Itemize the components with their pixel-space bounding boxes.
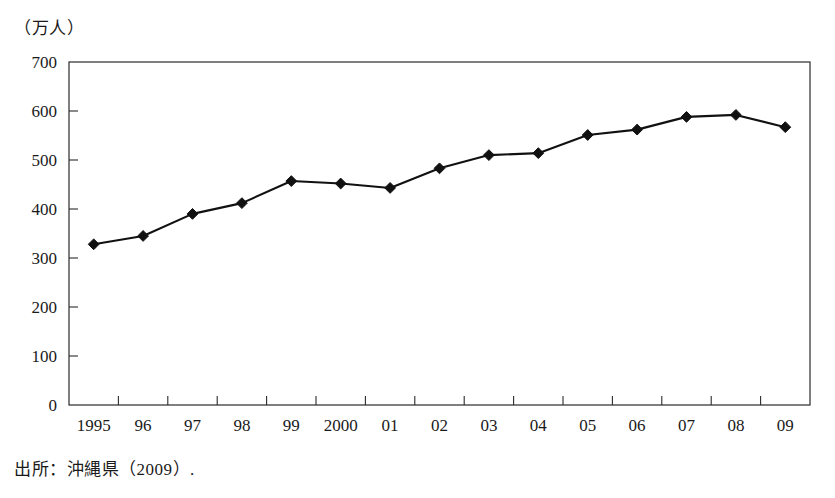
- x-tick-label: 04: [530, 416, 548, 435]
- x-tick-label: 07: [678, 416, 696, 435]
- x-tick-label: 05: [579, 416, 596, 435]
- source-note: 出所：沖縄県（2009）.: [14, 455, 195, 480]
- x-tick-label: 02: [431, 416, 448, 435]
- x-tick-label: 01: [382, 416, 399, 435]
- x-axis-ticks: 1995969798992000010203040506070809: [77, 396, 794, 435]
- data-point-marker: [434, 163, 445, 174]
- x-tick-label: 99: [283, 416, 300, 435]
- y-tick-label: 600: [32, 102, 58, 121]
- y-tick-label: 200: [32, 298, 58, 317]
- x-tick-label: 97: [184, 416, 202, 435]
- y-tick-label: 400: [32, 200, 58, 219]
- plot-frame: [69, 62, 810, 405]
- line-chart: 0100200300400500600700 19959697989920000…: [0, 0, 835, 460]
- data-point-marker: [187, 209, 198, 220]
- data-point-marker: [484, 150, 495, 161]
- data-point-marker: [286, 176, 297, 187]
- x-tick-label: 2000: [324, 416, 358, 435]
- y-axis-ticks: 0100200300400500600700: [32, 53, 79, 415]
- x-tick-label: 09: [777, 416, 794, 435]
- data-point-marker: [681, 111, 692, 122]
- y-tick-label: 700: [32, 53, 58, 72]
- x-tick-label: 98: [233, 416, 250, 435]
- x-tick-label: 96: [135, 416, 152, 435]
- y-tick-label: 500: [32, 151, 58, 170]
- data-point-marker: [780, 122, 791, 133]
- data-point-marker: [731, 110, 742, 121]
- data-point-marker: [335, 178, 346, 189]
- series-line-path: [94, 115, 786, 244]
- figure-container: （万人） 0100200300400500600700 199596979899…: [0, 0, 835, 498]
- data-point-marker: [138, 231, 149, 242]
- y-tick-label: 100: [32, 347, 58, 366]
- data-point-markers: [88, 110, 790, 250]
- data-point-marker: [237, 198, 248, 209]
- data-point-marker: [582, 130, 593, 141]
- x-tick-label: 08: [727, 416, 744, 435]
- x-tick-label: 03: [480, 416, 497, 435]
- y-tick-label: 300: [32, 249, 58, 268]
- chart-plot-area: 0100200300400500600700 19959697989920000…: [0, 0, 835, 460]
- data-point-marker: [385, 183, 396, 194]
- x-tick-label: 1995: [77, 416, 111, 435]
- x-tick-label: 06: [629, 416, 646, 435]
- data-point-marker: [88, 239, 99, 250]
- data-point-marker: [533, 148, 544, 159]
- data-point-marker: [632, 124, 643, 135]
- y-tick-label: 0: [49, 396, 58, 415]
